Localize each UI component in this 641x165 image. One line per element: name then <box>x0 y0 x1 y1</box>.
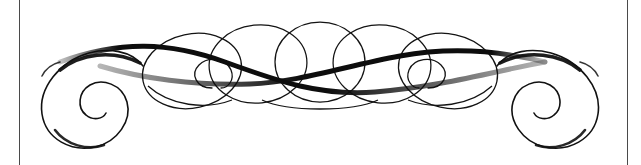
flourish-artwork <box>0 0 641 165</box>
border-rule-left <box>19 0 20 165</box>
border-rule-right <box>627 0 628 165</box>
ornament-canvas: Decorative calligraphic flourish ornamen… <box>0 0 641 165</box>
